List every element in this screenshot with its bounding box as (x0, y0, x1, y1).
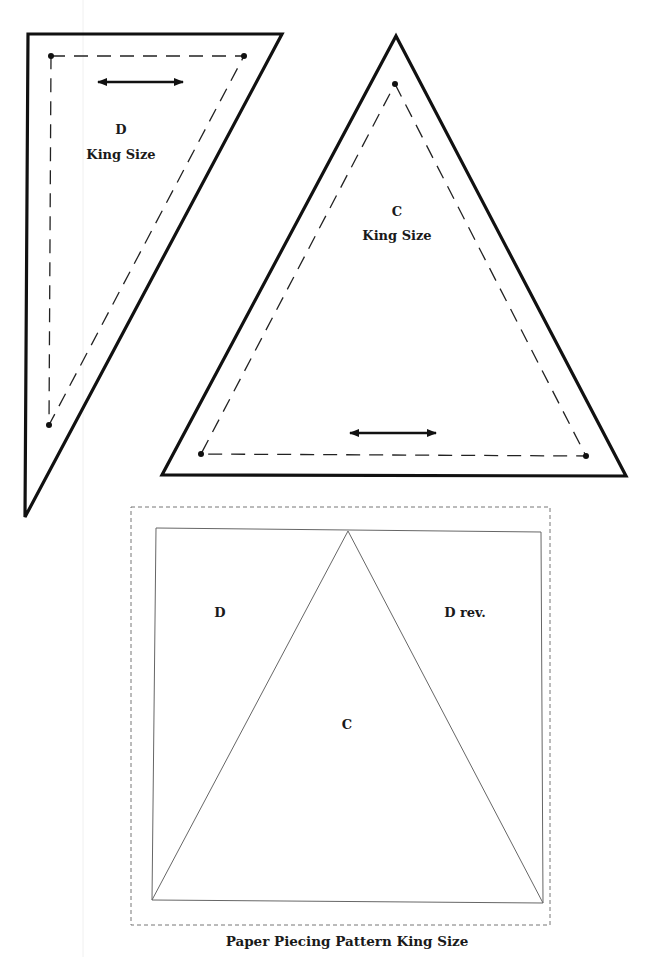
corner-dot-icon (48, 53, 54, 59)
corner-dot-icon (241, 53, 247, 59)
piece-d-letter: D (115, 122, 126, 137)
pattern-block-square (152, 528, 543, 903)
pattern-label-d: D (214, 605, 225, 620)
piece-c-seam-line (201, 84, 586, 456)
pattern-right-diagonal (348, 531, 543, 903)
corner-dot-icon (46, 422, 52, 428)
piece-d-cut-line (25, 34, 282, 517)
pattern-label-c: C (342, 717, 352, 732)
piece-d-size: King Size (86, 147, 155, 162)
paper-piecing-pattern: D D rev. C Paper Piecing Pattern King Si… (131, 507, 550, 949)
piece-c-cut-line (162, 36, 626, 476)
pattern-label-d-rev: D rev. (444, 605, 486, 620)
piece-c-letter: C (392, 204, 402, 219)
piece-d-seam-line (49, 56, 244, 425)
quilt-template-canvas: D King Size C King Size D D rev. C Paper… (0, 0, 653, 957)
pattern-caption: Paper Piecing Pattern King Size (226, 933, 469, 949)
corner-dot-icon (583, 453, 589, 459)
piece-d-template: D King Size (25, 34, 282, 517)
corner-dot-icon (198, 451, 204, 457)
piece-c-template: C King Size (162, 36, 626, 476)
piece-c-corner-dots (198, 81, 589, 459)
piece-c-size: King Size (362, 228, 431, 243)
pattern-left-diagonal (152, 531, 348, 900)
pattern-seam-allowance-border (131, 507, 550, 925)
corner-dot-icon (392, 81, 398, 87)
